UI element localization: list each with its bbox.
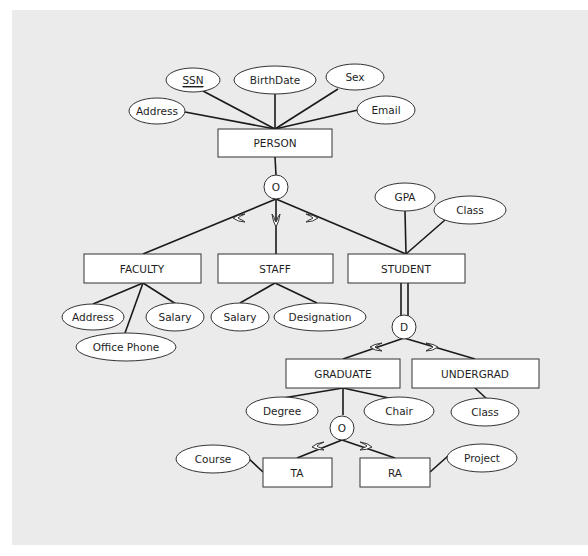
entity-student-label: STUDENT <box>381 263 431 275</box>
attr-undergrad-class-label: Class <box>471 406 499 418</box>
attr-ra-project-label: Project <box>464 452 500 464</box>
specialization-person-label: O <box>272 181 280 193</box>
entity-graduate-label: GRADUATE <box>314 368 371 380</box>
attr-ta-course-label: Course <box>195 453 232 465</box>
attr-student-gpa-label: GPA <box>395 191 417 203</box>
entity-ta[interactable]: TA <box>263 458 332 487</box>
attr-faculty-office-phone[interactable]: Office Phone <box>76 333 176 361</box>
entity-staff[interactable]: STAFF <box>218 254 333 283</box>
specialization-graduate-overlap[interactable]: O <box>330 416 354 440</box>
attr-faculty-address-label: Address <box>72 311 114 323</box>
attr-graduate-chair-label: Chair <box>385 405 413 417</box>
entity-staff-label: STAFF <box>259 263 291 275</box>
entity-undergrad[interactable]: UNDERGRAD <box>412 359 539 388</box>
attr-graduate-degree-label: Degree <box>263 405 301 417</box>
attr-faculty-salary[interactable]: Salary <box>146 303 204 331</box>
attr-person-birthdate[interactable]: BirthDate <box>234 66 316 94</box>
attr-faculty-office-phone-label: Office Phone <box>93 341 160 353</box>
attr-staff-designation-label: Designation <box>289 311 352 323</box>
attr-person-email-label: Email <box>371 104 400 116</box>
attr-person-email[interactable]: Email <box>357 96 415 124</box>
attr-staff-designation[interactable]: Designation <box>274 303 366 331</box>
attr-graduate-degree[interactable]: Degree <box>246 397 318 425</box>
attr-ta-course[interactable]: Course <box>176 445 250 473</box>
attr-student-class[interactable]: Class <box>434 196 506 224</box>
attr-person-address-label: Address <box>136 105 178 117</box>
entity-undergrad-label: UNDERGRAD <box>441 368 509 380</box>
attr-graduate-chair[interactable]: Chair <box>364 397 434 425</box>
entity-faculty[interactable]: FACULTY <box>84 254 201 283</box>
attr-person-sex-label: Sex <box>345 71 364 83</box>
specialization-student-disjoint[interactable]: D <box>392 315 416 339</box>
attr-person-address[interactable]: Address <box>129 98 185 124</box>
attr-student-gpa[interactable]: GPA <box>375 183 435 211</box>
attr-ra-project[interactable]: Project <box>447 444 517 472</box>
entity-ra[interactable]: RA <box>360 458 430 487</box>
attr-person-birthdate-label: BirthDate <box>250 74 300 86</box>
entity-ra-label: RA <box>388 467 403 479</box>
entity-ta-label: TA <box>290 467 305 479</box>
entity-person-label: PERSON <box>253 137 296 149</box>
entity-person[interactable]: PERSON <box>218 129 332 157</box>
entity-faculty-label: FACULTY <box>120 263 165 275</box>
attr-faculty-address[interactable]: Address <box>62 304 124 330</box>
attr-undergrad-class[interactable]: Class <box>451 398 519 426</box>
entity-student[interactable]: STUDENT <box>348 254 465 283</box>
attr-faculty-salary-label: Salary <box>159 311 192 323</box>
attr-person-ssn-label: SSN <box>182 74 203 86</box>
specialization-student-label: D <box>400 321 408 333</box>
attr-staff-salary-label: Salary <box>224 311 257 323</box>
attr-person-sex[interactable]: Sex <box>326 64 384 90</box>
specialization-person-overlap[interactable]: O <box>264 175 288 199</box>
attr-staff-salary[interactable]: Salary <box>211 303 269 331</box>
attr-student-class-label: Class <box>456 204 484 216</box>
specialization-graduate-label: O <box>338 422 346 434</box>
attr-person-ssn[interactable]: SSN <box>166 68 220 92</box>
entity-graduate[interactable]: GRADUATE <box>286 359 400 388</box>
eer-diagram-canvas: PERSON FACULTY STAFF STUDENT GRADUATE UN… <box>0 0 588 556</box>
